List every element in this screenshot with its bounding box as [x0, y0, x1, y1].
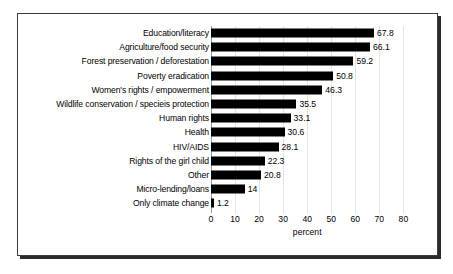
bar-value-label: 46.3 [322, 85, 342, 95]
bar[interactable] [211, 128, 285, 137]
bar[interactable] [211, 29, 374, 38]
x-tick-label: 10 [230, 213, 240, 225]
bar[interactable] [211, 185, 245, 194]
bar-row: Health30.6 [18, 125, 437, 139]
bar[interactable] [211, 100, 296, 109]
bar[interactable] [211, 43, 370, 52]
bar-value-label: 30.6 [285, 127, 305, 137]
category-label: Human rights [159, 113, 209, 123]
bar[interactable] [211, 85, 322, 94]
x-tick-label: 0 [209, 213, 214, 225]
bar-value-label: 1.2 [214, 198, 229, 208]
bar-row: HIV/AIDS28.1 [18, 140, 437, 154]
category-label: Only climate change [133, 198, 209, 208]
bar-value-label: 59.2 [353, 56, 373, 66]
bar[interactable] [211, 156, 265, 165]
category-label: Education/literacy [143, 28, 209, 38]
bar-value-label: 22.3 [265, 156, 285, 166]
bar-row: Rights of the girl child22.3 [18, 154, 437, 168]
x-tick-label: 60 [351, 213, 361, 225]
category-label: Micro-lending/loans [136, 184, 209, 194]
bar-row: Micro-lending/loans14 [18, 182, 437, 196]
x-axis-title: percent [293, 227, 322, 237]
bar-rows: Education/literacy67.8Agriculture/food s… [18, 26, 437, 210]
category-label: Rights of the girl child [129, 156, 209, 166]
bar-value-label: 33.1 [291, 113, 311, 123]
x-tick-label: 20 [254, 213, 264, 225]
bar[interactable] [211, 57, 353, 66]
bar[interactable] [211, 142, 279, 151]
bar-row: Other20.8 [18, 168, 437, 182]
bar-row: Agriculture/food security66.1 [18, 40, 437, 54]
x-tick-label: 70 [375, 213, 385, 225]
bar[interactable] [211, 170, 261, 179]
bar[interactable] [211, 114, 291, 123]
bar-value-label: 14 [245, 184, 258, 194]
bar-value-label: 67.8 [374, 28, 394, 38]
bar-row: Education/literacy67.8 [18, 26, 437, 40]
bar-value-label: 20.8 [261, 170, 281, 180]
category-label: Other [188, 170, 209, 180]
plot-area: Education/literacy67.8Agriculture/food s… [18, 14, 437, 255]
category-label: Health [185, 127, 209, 137]
category-label: Poverty eradication [137, 71, 209, 81]
category-label: Wildlife conservation / specieis protect… [56, 99, 209, 109]
bar-value-label: 50.8 [333, 71, 353, 81]
bar-value-label: 66.1 [370, 42, 390, 52]
category-label: Women's rights / empowerment [91, 85, 209, 95]
bar-row: Only climate change1.2 [18, 196, 437, 210]
x-tick-label: 50 [326, 213, 336, 225]
bar-row: Human rights33.1 [18, 111, 437, 125]
category-label: Agriculture/food security [119, 42, 209, 52]
bar-row: Forest preservation / deforestation59.2 [18, 54, 437, 68]
bar-value-label: 35.5 [296, 99, 316, 109]
bar-row: Wildlife conservation / specieis protect… [18, 97, 437, 111]
chart-frame: Education/literacy67.8Agriculture/food s… [17, 13, 438, 256]
bar[interactable] [211, 71, 333, 80]
x-tick-label: 80 [399, 213, 409, 225]
category-label: Forest preservation / deforestation [82, 56, 209, 66]
x-tick-label: 40 [302, 213, 312, 225]
bar-row: Poverty eradication50.8 [18, 69, 437, 83]
screenshot-root: Education/literacy67.8Agriculture/food s… [0, 0, 453, 274]
x-axis-ticks: 01020304050607080 [18, 213, 437, 227]
category-label: HIV/AIDS [173, 142, 209, 152]
x-tick-label: 30 [278, 213, 288, 225]
bar-value-label: 28.1 [279, 142, 299, 152]
bar-row: Women's rights / empowerment46.3 [18, 83, 437, 97]
